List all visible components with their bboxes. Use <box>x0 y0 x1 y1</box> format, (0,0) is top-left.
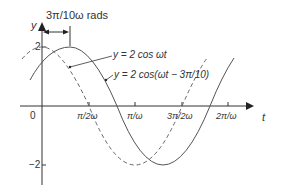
x-axis-arrow-icon <box>246 102 254 110</box>
diagram-canvas <box>0 0 286 186</box>
phase-label: 3π/10ω rads <box>46 10 108 21</box>
x-axis-label: t <box>262 112 265 123</box>
origin-label: 0 <box>30 111 36 121</box>
y-tick-label-max: 2 <box>35 42 41 52</box>
x-tick-label-3: 3π/2ω <box>167 112 193 121</box>
x-tick-label-2: π/ω <box>127 112 143 121</box>
leader-lagging <box>106 75 113 80</box>
curve-lagging-label: y = 2 cos(ωt − 3π/10) <box>114 70 209 80</box>
curve-reference-label: y = 2 cos ωt <box>113 50 167 60</box>
phase-arrow-right-icon <box>63 30 69 35</box>
y-axis-label: y <box>31 20 37 31</box>
x-tick-label-1: π/2ω <box>77 112 98 121</box>
leader-reference <box>70 56 112 67</box>
y-tick-label-min: −2 <box>29 160 40 170</box>
y-axis-arrow-icon <box>38 22 46 31</box>
x-tick-label-4: 2π/ω <box>216 112 237 121</box>
x-ticks <box>89 102 228 106</box>
